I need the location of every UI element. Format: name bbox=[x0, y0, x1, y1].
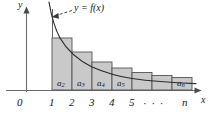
curve-equation-label: y = f(x) bbox=[74, 3, 104, 13]
x-tick-label-2: 2 bbox=[69, 97, 75, 108]
x-tick-label-3: 3 bbox=[89, 97, 95, 108]
figure-graphics bbox=[0, 0, 212, 115]
bar-label-a5: a5 bbox=[117, 79, 125, 89]
bar-label-a5-sub: 5 bbox=[122, 81, 125, 88]
x-tick-label-0: 0 bbox=[17, 97, 23, 108]
bar-label-a3: a3 bbox=[77, 79, 85, 89]
bar-label-a2-sub: 2 bbox=[62, 81, 65, 88]
curve-label-arrow-icon bbox=[52, 11, 73, 19]
x-tick-label-n: n bbox=[182, 97, 188, 108]
x-tick-label-5: 5 bbox=[129, 97, 135, 108]
y-axis bbox=[23, 7, 29, 93]
figure-integral-test: y x y = f(x) 0 1 2 3 4 5 · · · n a2 a3 a… bbox=[0, 0, 212, 115]
bar-label-an-sub: n bbox=[182, 81, 185, 88]
bar-label-a4-sub: 4 bbox=[102, 81, 105, 88]
y-axis-label: y bbox=[18, 0, 22, 10]
x-tick-label-1: 1 bbox=[49, 97, 55, 108]
bar-label-a2: a2 bbox=[57, 79, 65, 89]
x-tick-label-4: 4 bbox=[109, 97, 115, 108]
x-axis-ellipsis: · · · bbox=[143, 98, 165, 109]
x-axis-label: x bbox=[201, 95, 205, 105]
bar-label-a4: a4 bbox=[97, 79, 105, 89]
bar-label-an: an bbox=[177, 79, 185, 89]
bar-unlabeled-1 bbox=[132, 73, 152, 91]
bar-label-a3-sub: 3 bbox=[82, 81, 85, 88]
